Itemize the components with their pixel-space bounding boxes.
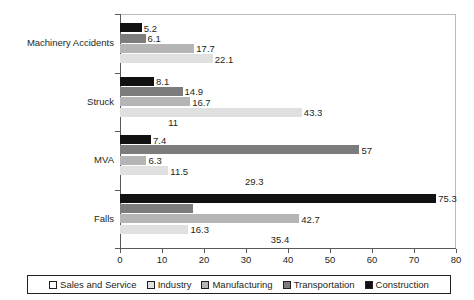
bar xyxy=(120,166,168,175)
bar-value-label: 11.5 xyxy=(170,167,188,176)
x-axis-tick xyxy=(288,249,289,253)
bar xyxy=(120,87,183,96)
bar xyxy=(120,23,142,32)
bar-value-label: 8.1 xyxy=(156,77,169,86)
category-label: Falls xyxy=(2,214,114,224)
x-axis-tick-label: 60 xyxy=(360,254,384,265)
x-axis-tick xyxy=(372,249,373,253)
legend-item[interactable]: Manufacturing xyxy=(201,279,272,290)
bar xyxy=(120,176,243,185)
x-axis-tick-label: 20 xyxy=(192,254,216,265)
x-axis-tick xyxy=(204,249,205,253)
x-axis-tick xyxy=(162,249,163,253)
x-axis-tick-label: 40 xyxy=(276,254,300,265)
bar xyxy=(120,54,213,63)
legend-label: Industry xyxy=(158,279,192,290)
x-axis-tick xyxy=(456,249,457,253)
bar-value-label: 16.3 xyxy=(190,225,209,234)
bar-value-label: 16.7 xyxy=(192,98,211,107)
x-axis-tick xyxy=(246,249,247,253)
bar xyxy=(120,108,302,117)
bar-value-label: 5.2 xyxy=(144,24,157,33)
x-axis-tick-label: 10 xyxy=(150,254,174,265)
x-axis-tick-label: 70 xyxy=(402,254,426,265)
legend-swatch-icon xyxy=(147,281,155,289)
x-axis-tick xyxy=(414,249,415,253)
bar-value-label: 43.3 xyxy=(304,108,323,117)
y-axis-tick xyxy=(115,190,120,191)
x-axis-tick xyxy=(120,249,121,253)
legend-swatch-icon xyxy=(201,281,209,289)
bar xyxy=(120,214,299,223)
bar-value-label: 6.3 xyxy=(148,156,161,165)
category-label: Struck xyxy=(2,97,114,107)
legend-label: Transportation xyxy=(294,279,355,290)
bar-value-label: 29.3 xyxy=(245,177,264,186)
x-axis-tick-label: 80 xyxy=(444,254,468,265)
bar xyxy=(120,235,269,244)
x-axis-tick-label: 30 xyxy=(234,254,258,265)
legend-swatch-icon xyxy=(49,281,57,289)
y-axis-tick xyxy=(115,73,120,74)
x-axis-tick xyxy=(330,249,331,253)
bar-value-label: 75.3 xyxy=(438,194,457,203)
bar-value-label: 22.1 xyxy=(215,55,234,64)
bar xyxy=(120,204,193,213)
bar xyxy=(120,44,194,53)
legend-label: Construction xyxy=(376,279,429,290)
bar xyxy=(120,77,154,86)
y-axis-tick xyxy=(115,131,120,132)
bar xyxy=(120,145,359,154)
legend-label: Manufacturing xyxy=(212,279,272,290)
bar-value-label: 14.9 xyxy=(185,87,204,96)
legend-swatch-icon xyxy=(365,281,373,289)
bar-value-label: 11 xyxy=(168,118,178,127)
bar-chart: Machinery AccidentsStruckMVAFalls 5.26.1… xyxy=(0,0,474,300)
chart-legend: Sales and ServiceIndustryManufacturingTr… xyxy=(27,275,451,294)
bar xyxy=(120,97,190,106)
bar-value-label: 17.7 xyxy=(196,44,215,53)
bar xyxy=(120,118,166,127)
bar-value-label: 57 xyxy=(361,146,372,155)
legend-item[interactable]: Sales and Service xyxy=(49,279,137,290)
legend-item[interactable]: Transportation xyxy=(283,279,355,290)
legend-item[interactable]: Construction xyxy=(365,279,429,290)
x-axis-tick-label: 0 xyxy=(108,254,132,265)
legend-item[interactable]: Industry xyxy=(147,279,192,290)
bar xyxy=(120,194,436,203)
bar xyxy=(120,156,146,165)
category-label: Machinery Accidents xyxy=(2,38,114,48)
category-label: MVA xyxy=(2,155,114,165)
bar xyxy=(120,34,146,43)
bar-value-label: 7.4 xyxy=(153,136,166,145)
bar-value-label: 35.4 xyxy=(271,235,290,244)
bar-value-label: 6.1 xyxy=(148,34,161,43)
bar xyxy=(120,135,151,144)
x-axis-tick-label: 50 xyxy=(318,254,342,265)
legend-label: Sales and Service xyxy=(60,279,137,290)
legend-swatch-icon xyxy=(283,281,291,289)
y-axis-tick xyxy=(115,14,120,15)
bar-value-label: 42.7 xyxy=(301,215,320,224)
bar xyxy=(120,225,188,234)
